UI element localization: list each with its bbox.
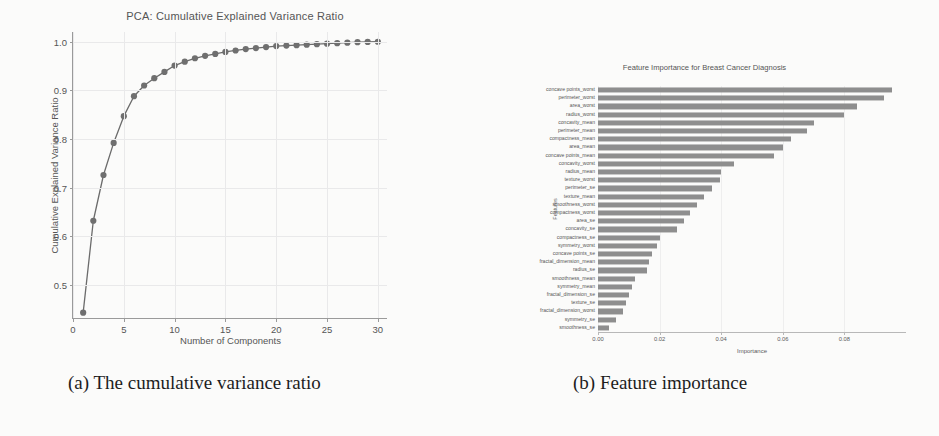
bar — [598, 243, 657, 248]
bar-category-label: concavity_worst — [559, 161, 595, 166]
bar-row: radius_mean — [598, 168, 906, 176]
bar-category-label: concave points_worst — [546, 88, 595, 93]
y-tick-label: 1.0 — [54, 36, 67, 47]
bar-row: compactness_mean — [598, 135, 906, 143]
bar-category-label: fractal_dimension_worst — [540, 309, 595, 314]
bar-category-label: radius_mean — [566, 170, 595, 175]
x-tick-label: 25 — [322, 324, 333, 335]
bar — [598, 137, 791, 142]
bar-row: fractal_dimension_se — [598, 291, 906, 299]
gridline-vertical — [327, 32, 328, 318]
bar — [598, 268, 647, 273]
bar-row: symmetry_se — [598, 316, 906, 324]
bar — [598, 120, 814, 125]
bar-row: radius_se — [598, 266, 906, 274]
bar-row: smoothness_worst — [598, 201, 906, 209]
x-tick-label: 30 — [373, 324, 384, 335]
bar-row: symmetry_mean — [598, 283, 906, 291]
bar-category-label: texture_worst — [564, 178, 595, 183]
pca-line — [83, 42, 378, 313]
pca-data-point — [100, 172, 106, 178]
caption-b: (b) Feature importance — [573, 372, 747, 394]
y-tick-label: 0.9 — [54, 85, 67, 96]
gridline-horizontal — [73, 90, 387, 91]
bar-category-label: perimeter_worst — [558, 96, 595, 101]
bar — [598, 129, 807, 134]
bar — [598, 186, 712, 191]
bar — [598, 260, 649, 265]
bar-category-label: symmetry_worst — [558, 243, 595, 248]
figure-row: PCA: Cumulative Explained Variance Ratio… — [0, 0, 939, 370]
chart-title-pca: PCA: Cumulative Explained Variance Ratio — [0, 10, 470, 22]
x-tick-mark — [378, 318, 379, 322]
bar-category-label: texture_se — [571, 301, 595, 306]
x-tick-label: 10 — [169, 324, 180, 335]
bar — [598, 170, 721, 175]
x-tick-mark — [175, 318, 176, 322]
bar — [598, 219, 684, 224]
bar-category-label: fractal_dimension_se — [547, 293, 595, 298]
bar-category-label: symmetry_se — [565, 317, 595, 322]
bar — [598, 161, 734, 166]
x-tick-label: 0 — [70, 324, 75, 335]
x-tick-label: 15 — [220, 324, 231, 335]
bar — [598, 301, 626, 306]
pca-line-series — [73, 32, 388, 319]
bar — [598, 276, 635, 281]
bar-row: perimeter_se — [598, 184, 906, 192]
bar-row: concavity_se — [598, 225, 906, 233]
bar — [598, 88, 892, 93]
y-tick-label: 0.8 — [54, 134, 67, 145]
bar-category-label: radius_worst — [566, 112, 595, 117]
gridline-vertical — [378, 32, 379, 318]
bar-category-label: perimeter_se — [565, 186, 595, 191]
pca-data-point — [263, 44, 269, 50]
bar — [598, 202, 697, 207]
x-tick-label: 0.06 — [777, 336, 788, 342]
bar-row: radius_worst — [598, 111, 906, 119]
gridline-vertical — [276, 32, 277, 318]
pca-data-point — [243, 46, 249, 52]
bar-row: texture_worst — [598, 176, 906, 184]
bar-row: concavity_mean — [598, 119, 906, 127]
gridline-horizontal — [73, 139, 387, 140]
bar — [598, 194, 704, 199]
panel-cumulative-variance-chart: PCA: Cumulative Explained Variance Ratio… — [0, 0, 470, 372]
x-tick-mark — [276, 318, 277, 322]
bar — [598, 153, 774, 158]
bar-row: area_mean — [598, 143, 906, 151]
y-tick-label: 0.6 — [54, 231, 67, 242]
bar — [598, 145, 783, 150]
bar-category-label: compactness_se — [557, 235, 595, 240]
pca-data-point — [283, 43, 289, 49]
bar-category-label: compactness_mean — [549, 137, 595, 142]
bar-category-label: perimeter_mean — [558, 129, 595, 134]
bar-category-label: compactness_worst — [550, 211, 595, 216]
bar — [598, 112, 844, 117]
gridline-horizontal — [73, 236, 387, 237]
pca-data-point — [202, 53, 208, 59]
bar — [598, 317, 616, 322]
bar-category-label: smoothness_se — [559, 325, 595, 330]
x-tick-mark — [783, 332, 784, 335]
bar-category-label: area_mean — [569, 145, 595, 150]
pca-data-point — [232, 47, 238, 53]
gridline-horizontal — [73, 42, 387, 43]
bar-row: concave points_mean — [598, 152, 906, 160]
gridline-vertical — [175, 32, 176, 318]
feature-importance-plot-area: Features Importance 0.000.020.040.060.08… — [598, 86, 906, 332]
bar-row: area_worst — [598, 102, 906, 110]
x-tick-mark — [598, 332, 599, 335]
bar-row: symmetry_worst — [598, 242, 906, 250]
bar-row: concave points_worst — [598, 86, 906, 94]
x-tick-label: 0.08 — [839, 336, 850, 342]
pca-data-point — [192, 55, 198, 61]
x-axis-baseline — [598, 332, 906, 333]
y-axis-label-pca: Cumulative Explained Variance Ratio — [49, 32, 65, 319]
bar — [598, 293, 629, 298]
x-tick-label: 5 — [121, 324, 126, 335]
bar — [598, 178, 720, 183]
gridline-horizontal — [73, 188, 387, 189]
bar-category-label: symmetry_mean — [557, 284, 595, 289]
bar — [598, 211, 690, 216]
